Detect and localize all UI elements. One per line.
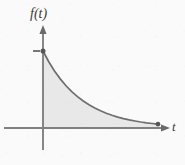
x-axis-label: t (172, 120, 176, 133)
x-axis-arrowhead-icon (161, 124, 170, 131)
exponential-decay-plot (0, 0, 185, 165)
shaded-area-under-curve (43, 51, 158, 128)
figure-canvas: f(t) t (0, 0, 185, 165)
y-axis-label: f(t) (30, 7, 47, 21)
curve-end-point-marker (156, 122, 161, 127)
curve-start-point-marker (41, 49, 46, 54)
y-axis-arrowhead-icon (39, 25, 46, 34)
